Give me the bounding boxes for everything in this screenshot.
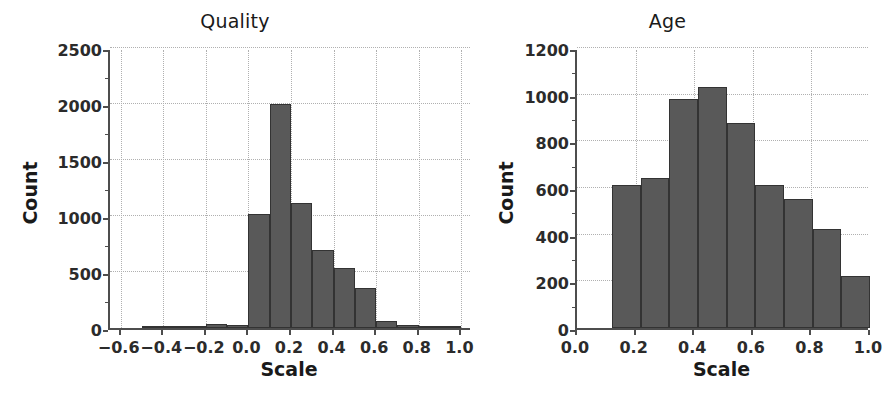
- y-tick-mark: [103, 106, 108, 108]
- y-tick-mark-minor: [572, 307, 575, 308]
- y-tick-label: 0: [517, 321, 569, 340]
- histogram-bar: [142, 326, 163, 328]
- x-tick-label: −0.6: [98, 338, 140, 357]
- x-axis-label-age: Scale: [575, 358, 868, 380]
- histogram-bar: [612, 185, 641, 329]
- y-tick-mark: [570, 143, 575, 145]
- histogram-bar: [419, 326, 440, 328]
- y-tick-label: 2000: [50, 97, 102, 116]
- plot-area-quality: [108, 50, 470, 330]
- y-tick-mark-minor: [105, 246, 108, 247]
- x-tick-mark: [809, 330, 811, 335]
- y-tick-label: 400: [517, 227, 569, 246]
- y-tick-label: 1500: [50, 153, 102, 172]
- y-tick-mark: [103, 330, 108, 332]
- y-tick-mark-minor: [105, 190, 108, 191]
- gridline-horizontal: [577, 47, 868, 48]
- histogram-bar: [813, 229, 842, 328]
- y-tick-mark-minor: [572, 120, 575, 121]
- x-tick-mark: [119, 330, 121, 335]
- histogram-bar: [291, 203, 312, 328]
- histogram-bar: [397, 325, 418, 328]
- gridline-horizontal: [110, 47, 470, 48]
- histogram-bar: [727, 123, 756, 328]
- histogram-bar: [163, 326, 184, 328]
- x-tick-mark: [692, 330, 694, 335]
- y-tick-mark: [570, 237, 575, 239]
- x-tick-label: −0.2: [183, 338, 225, 357]
- x-tick-mark: [417, 330, 419, 335]
- x-tick-label: 0.0: [561, 338, 589, 357]
- y-tick-mark: [103, 218, 108, 220]
- x-tick-label: 0.0: [232, 338, 260, 357]
- y-tick-mark-minor: [105, 302, 108, 303]
- y-tick-label: 2500: [50, 41, 102, 60]
- histogram-bar: [669, 99, 698, 328]
- x-tick-mark: [161, 330, 163, 335]
- y-tick-label: 200: [517, 274, 569, 293]
- y-tick-mark-minor: [572, 213, 575, 214]
- x-tick-mark: [246, 330, 248, 335]
- y-tick-label: 1000: [50, 209, 102, 228]
- histogram-bar: [755, 185, 784, 329]
- y-tick-mark-minor: [105, 134, 108, 135]
- histogram-bar: [376, 321, 397, 328]
- gridline-vertical: [206, 50, 207, 328]
- y-tick-label: 1000: [517, 87, 569, 106]
- y-tick-label: 600: [517, 181, 569, 200]
- y-axis-label-quality: Count: [19, 133, 41, 253]
- y-tick-mark: [570, 190, 575, 192]
- histogram-bar: [641, 178, 670, 329]
- y-tick-mark-minor: [572, 260, 575, 261]
- chart-panel-age: Age Scale Count 0200400600800100012000.0…: [440, 0, 895, 398]
- x-tick-label: 0.4: [317, 338, 345, 357]
- gridline-vertical: [121, 50, 122, 328]
- y-tick-mark: [570, 283, 575, 285]
- x-tick-mark: [634, 330, 636, 335]
- chart-title-quality: Quality: [0, 10, 470, 32]
- figure-canvas: Quality Scale Count 05001000150020002500…: [0, 0, 895, 398]
- chart-title-age: Age: [440, 10, 895, 32]
- x-tick-mark: [204, 330, 206, 335]
- histogram-bar: [841, 276, 870, 329]
- x-tick-label: −0.4: [140, 338, 182, 357]
- x-tick-label: 0.8: [403, 338, 431, 357]
- x-axis-label-quality: Scale: [108, 358, 470, 380]
- histogram-bar: [248, 214, 269, 328]
- y-tick-mark: [103, 162, 108, 164]
- x-tick-mark: [374, 330, 376, 335]
- y-tick-mark: [570, 50, 575, 52]
- histogram-bar: [784, 199, 813, 329]
- histogram-bar: [206, 324, 227, 328]
- y-tick-label: 1200: [517, 41, 569, 60]
- histogram-bar: [185, 326, 206, 328]
- x-tick-label: 1.0: [854, 338, 882, 357]
- x-tick-label: 0.2: [619, 338, 647, 357]
- y-tick-label: 500: [50, 265, 102, 284]
- x-tick-mark: [868, 330, 870, 335]
- y-axis-label-age: Count: [495, 133, 517, 253]
- histogram-bar: [334, 268, 355, 328]
- x-tick-label: 0.4: [678, 338, 706, 357]
- x-tick-label: 0.6: [737, 338, 765, 357]
- histogram-bar: [698, 87, 727, 329]
- histogram-bar: [270, 104, 291, 328]
- gridline-vertical: [163, 50, 164, 328]
- plot-area-age: [575, 50, 868, 330]
- histogram-bar: [355, 288, 376, 328]
- x-tick-label: 0.8: [795, 338, 823, 357]
- y-tick-mark: [570, 97, 575, 99]
- y-tick-mark-minor: [572, 167, 575, 168]
- y-tick-mark: [103, 50, 108, 52]
- gridline-vertical: [376, 50, 377, 328]
- x-tick-label: 0.2: [275, 338, 303, 357]
- y-tick-mark-minor: [105, 78, 108, 79]
- gridline-vertical: [419, 50, 420, 328]
- histogram-bar: [312, 250, 333, 328]
- x-tick-mark: [332, 330, 334, 335]
- chart-panel-quality: Quality Scale Count 05001000150020002500…: [0, 0, 470, 398]
- y-tick-label: 0: [50, 321, 102, 340]
- x-tick-label: 0.6: [360, 338, 388, 357]
- x-tick-mark: [751, 330, 753, 335]
- y-tick-label: 800: [517, 134, 569, 153]
